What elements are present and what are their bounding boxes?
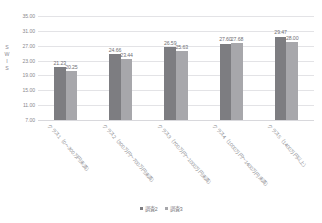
y-axis-title-char: I xyxy=(2,58,12,65)
x-axis-category-label: クラス3（700万円～1000万円未満） xyxy=(157,122,215,187)
bar-調査3-クラス3（700万円～1000万円未満）[interactable] xyxy=(176,51,188,120)
x-axis-category-labels: クラス1（0～300万円未満）クラス2（300万円～700万円未満）クラス3（7… xyxy=(38,122,314,200)
bar-group xyxy=(109,16,132,120)
legend-swatch-icon xyxy=(140,207,143,210)
y-axis-title-char: S xyxy=(2,65,12,72)
y-axis-tick-label: 11.00 xyxy=(23,102,35,108)
x-axis-category-label: クラス4（1000万円～1400万円未満） xyxy=(212,122,272,190)
y-axis-tick-label: 35.00 xyxy=(23,13,36,19)
bar-group xyxy=(220,16,243,120)
chart-legend: 調査2調査3 xyxy=(0,205,322,212)
bar-group xyxy=(164,16,187,120)
bars-layer: 21.2320.2524.6623.4426.5925.6327.6027.68… xyxy=(38,16,314,120)
x-axis-category-label: クラス1（0～300万円未満） xyxy=(46,122,92,174)
bar-調査3-クラス1（0～300万円未満）[interactable] xyxy=(66,71,78,120)
y-axis-tick-label: 27.00 xyxy=(23,43,36,49)
x-axis-category-label: クラス5（1400万円以上） xyxy=(267,122,310,170)
y-axis-tick-label: 7.00 xyxy=(25,117,35,123)
y-axis-title: SWIS xyxy=(2,44,12,72)
y-axis-title-char: S xyxy=(2,44,12,51)
bar-調査2-クラス4（1000万円～1400万円未満）[interactable] xyxy=(220,44,232,121)
y-axis-tick-label: 15.00 xyxy=(23,87,36,93)
legend-item-調査3[interactable]: 調査3 xyxy=(165,205,183,212)
bar-調査3-クラス4（1000万円～1400万円未満）[interactable] xyxy=(231,43,243,120)
y-axis-tick-label: 23.00 xyxy=(23,58,36,64)
legend-item-調査2[interactable]: 調査2 xyxy=(140,205,158,212)
bar-調査2-クラス3（700万円～1000万円未満）[interactable] xyxy=(164,47,176,120)
bar-group xyxy=(54,16,77,120)
y-axis-tick-label: 31.00 xyxy=(23,28,36,34)
y-axis-title-char: W xyxy=(2,51,12,58)
legend-label: 調査2 xyxy=(145,205,158,212)
bar-調査3-クラス2（300万円～700万円未満）[interactable] xyxy=(121,59,133,120)
bar-group xyxy=(275,16,298,120)
x-axis-category-label: クラス2（300万円～700万円未満） xyxy=(102,122,158,185)
legend-label: 調査3 xyxy=(170,205,183,212)
plot-area: 35.0031.0027.0023.0019.0015.0011.007.00 … xyxy=(38,16,314,120)
legend-swatch-icon xyxy=(165,207,168,210)
bar-chart: SWIS 35.0031.0027.0023.0019.0015.0011.00… xyxy=(0,0,322,223)
bar-調査2-クラス1（0～300万円未満）[interactable] xyxy=(54,67,66,120)
y-axis-tick-label: 19.00 xyxy=(23,72,36,78)
bar-調査2-クラス5（1400万円以上）[interactable] xyxy=(275,37,287,120)
bar-調査3-クラス5（1400万円以上）[interactable] xyxy=(286,42,298,120)
gridline xyxy=(38,120,314,121)
bar-調査2-クラス2（300万円～700万円未満）[interactable] xyxy=(109,54,121,120)
